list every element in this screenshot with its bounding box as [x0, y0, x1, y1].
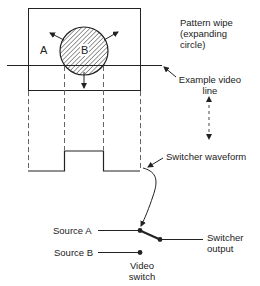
expand-arrow-upright	[104, 32, 118, 40]
region-b-label: B	[80, 44, 89, 56]
source-a-label: Source A	[53, 225, 92, 236]
switcher-output-label: Switcher output	[207, 232, 243, 254]
waveform-to-switch-arrow	[141, 168, 156, 226]
region-a-label: A	[40, 44, 47, 56]
video-switch	[98, 228, 203, 255]
video-switch-label: Video switch	[122, 260, 162, 282]
waveform-label-pointer	[148, 158, 163, 167]
relation-arrow	[206, 96, 212, 140]
switcher-waveform	[28, 151, 140, 171]
expand-arrow-upleft	[50, 33, 64, 40]
example-video-line-label: Example video line	[174, 74, 246, 96]
source-b-label: Source B	[54, 247, 93, 258]
switcher-waveform-label: Switcher waveform	[166, 151, 246, 162]
pattern-wipe-label: Pattern wipe (expanding circle)	[180, 17, 233, 50]
